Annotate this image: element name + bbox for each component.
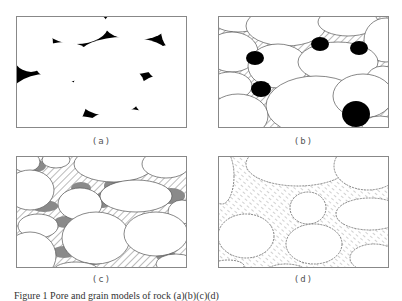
figure-caption: Figure 1 Pore and grain models of rock (… xyxy=(14,290,219,301)
panel-d-drawing xyxy=(218,156,389,268)
panel-a-drawing xyxy=(16,16,187,128)
panel-d xyxy=(218,156,389,268)
panel-c-drawing xyxy=(16,156,187,268)
panel-b xyxy=(218,16,389,128)
panel-d-label: (d) xyxy=(218,274,389,284)
panel-a-label: (a) xyxy=(16,136,187,146)
panel-a xyxy=(16,16,187,128)
panel-b-label: (b) xyxy=(218,136,389,146)
panel-b-drawing xyxy=(218,16,389,128)
panel-c xyxy=(16,156,187,268)
panel-c-label: (c) xyxy=(16,274,187,284)
